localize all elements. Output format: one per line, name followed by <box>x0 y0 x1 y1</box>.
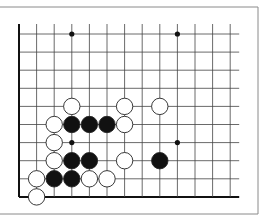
white-stone <box>152 98 168 114</box>
black-stone <box>81 153 97 169</box>
white-stone <box>116 153 132 169</box>
black-stone <box>152 153 168 169</box>
star-point <box>69 31 74 36</box>
white-stone <box>116 98 132 114</box>
white-stone <box>99 171 115 187</box>
white-stone <box>46 153 62 169</box>
star-point <box>175 31 180 36</box>
star-point <box>175 140 180 145</box>
white-stone <box>28 171 44 187</box>
black-stone <box>81 116 97 132</box>
black-stone <box>64 171 80 187</box>
white-stone <box>64 98 80 114</box>
white-stone <box>116 116 132 132</box>
star-point <box>69 140 74 145</box>
white-stone <box>46 134 62 150</box>
go-board-diagram <box>0 0 261 223</box>
black-stone <box>64 116 80 132</box>
white-stone <box>28 189 44 205</box>
black-stone <box>46 171 62 187</box>
white-stone <box>46 116 62 132</box>
white-stone <box>81 171 97 187</box>
black-stone <box>64 153 80 169</box>
black-stone <box>99 116 115 132</box>
stones <box>28 98 168 205</box>
